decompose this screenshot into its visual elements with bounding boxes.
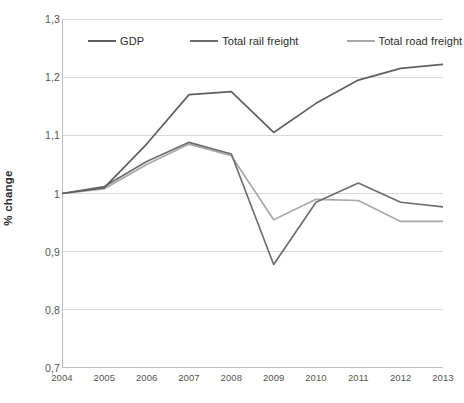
x-tick-2008: 2008 <box>210 372 252 383</box>
legend-label: Total rail freight <box>222 35 298 47</box>
legend-swatch-icon <box>347 40 375 42</box>
x-tick-2013: 2013 <box>422 372 464 383</box>
plot-area <box>62 19 443 368</box>
plot-svg <box>62 19 443 368</box>
legend-label: Total road freight <box>379 35 463 47</box>
legend-item-gdp[interactable]: GDP <box>88 35 144 47</box>
x-tick-2007: 2007 <box>168 372 210 383</box>
legend-swatch-icon <box>88 40 116 42</box>
y-tick-0-9: 0,9 <box>14 246 60 258</box>
y-tick-0-8: 0,8 <box>14 304 60 316</box>
x-tick-2012: 2012 <box>380 372 422 383</box>
series-line-gdp <box>62 64 443 193</box>
y-tick-1-3: 1,3 <box>14 13 60 25</box>
x-tick-2011: 2011 <box>337 372 379 383</box>
chart-legend: GDPTotal rail freightTotal road freight <box>62 30 443 52</box>
y-tick-1-2: 1,2 <box>14 71 60 83</box>
x-tick-2009: 2009 <box>253 372 295 383</box>
x-tick-2004: 2004 <box>41 372 83 383</box>
legend-swatch-icon <box>190 40 218 42</box>
y-tick-1-1: 1,1 <box>14 129 60 141</box>
legend-item-total-road-freight[interactable]: Total road freight <box>347 35 463 47</box>
legend-label: GDP <box>120 35 144 47</box>
x-tick-2006: 2006 <box>126 372 168 383</box>
x-tick-2010: 2010 <box>295 372 337 383</box>
y-tick-1: 1 <box>14 188 60 200</box>
y-axis-tick-labels: 0,70,80,911,11,21,3 <box>12 0 60 403</box>
x-tick-2005: 2005 <box>83 372 125 383</box>
series-line-total-rail-freight <box>62 142 443 264</box>
legend-item-total-rail-freight[interactable]: Total rail freight <box>190 35 298 47</box>
